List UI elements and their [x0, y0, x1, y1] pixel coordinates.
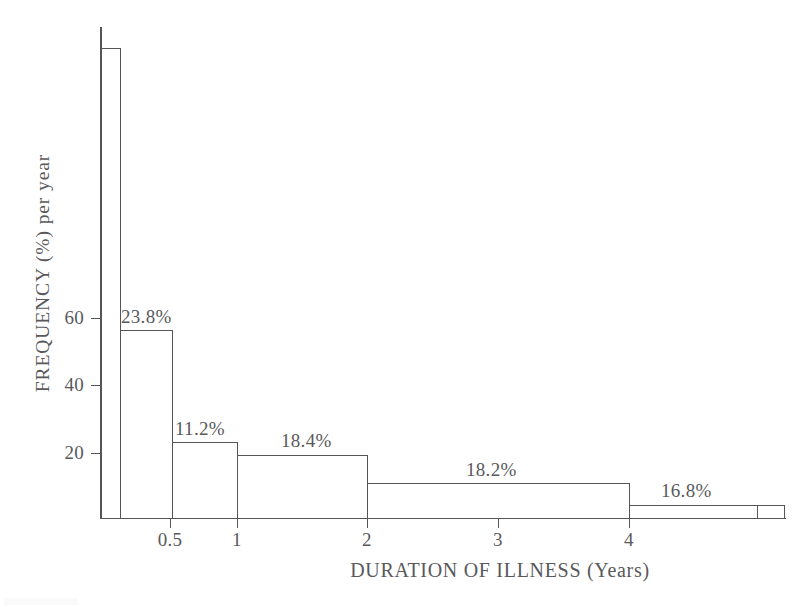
- bar-bin-5: [367, 483, 630, 518]
- x-axis-title: DURATION OF ILLNESS (Years): [240, 558, 760, 582]
- bar-bin-7-terminal-box: [757, 505, 785, 519]
- x-tick-label-2: 2: [337, 530, 397, 550]
- bar-label-bin-4: 18.4%: [281, 431, 332, 450]
- bar-bin-1: [101, 48, 121, 518]
- bar-bin-6: [629, 505, 759, 519]
- y-axis-title: FREQUENCY (%) per year: [32, 108, 54, 438]
- histogram-figure: 60 40 20 0.5 1 2 3 4 23.8% 11.2% 18.4% 1…: [0, 0, 811, 607]
- bar-bin-4: [237, 455, 368, 518]
- y-tick-label-20: 20: [44, 443, 84, 462]
- x-tick-3: [498, 518, 500, 528]
- x-tick-1: [237, 518, 239, 528]
- bar-label-bin-3: 11.2%: [175, 419, 225, 438]
- x-tick-label-0.5: 0.5: [140, 530, 200, 550]
- bar-label-bin-6: 16.8%: [661, 481, 712, 500]
- bar-bin-2: [120, 330, 173, 518]
- bar-bin-3: [172, 442, 239, 518]
- scan-artifact: [4, 598, 78, 605]
- y-tick-20: [91, 453, 101, 455]
- x-tick-label-3: 3: [468, 530, 528, 550]
- x-tick-label-1: 1: [207, 530, 267, 550]
- bar-label-bin-2: 23.8%: [121, 307, 172, 326]
- y-tick-40: [91, 385, 101, 387]
- bar-label-bin-5: 18.2%: [466, 460, 517, 479]
- x-tick-2: [367, 518, 369, 528]
- x-tick-4: [629, 518, 631, 528]
- y-tick-60: [91, 318, 101, 320]
- x-tick-label-4: 4: [599, 530, 659, 550]
- x-tick-0.5: [170, 518, 172, 528]
